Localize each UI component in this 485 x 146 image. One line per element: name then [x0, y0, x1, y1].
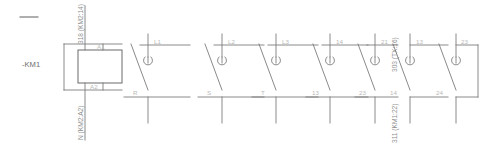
pole-l1: L1 R — [124, 34, 190, 123]
pole-l2: L2 S — [198, 34, 264, 123]
pole-l2-top-label: L2 — [228, 38, 235, 45]
vertical-label-303: 303 (TX:16) — [391, 37, 399, 72]
coil-wire-bottom-label: N (KM2:A2) — [77, 106, 85, 140]
blade-1 — [131, 44, 148, 90]
coil-terminal-a2: A2 — [90, 83, 98, 90]
blade-3 — [259, 44, 276, 90]
coil-wire-top-label: 318 (KM2:14) — [77, 4, 85, 44]
pole-aux-23-24: 23 24 — [436, 34, 478, 123]
pole-aux-14-13: 14 13 — [306, 34, 368, 123]
pole-l1-bottom-label: R — [133, 89, 138, 96]
pole-aux-13-14: 13 14 — [390, 34, 448, 123]
pole-aux-13-14-bottom-label: 14 — [390, 89, 397, 96]
coil-box — [78, 50, 122, 83]
coil-terminal-a1: A1 — [97, 43, 105, 50]
coil-assembly: A1 A2 318 (KM2:14) N (KM2:A2) — [64, 4, 122, 140]
pole-aux-14-13-top-label: 14 — [336, 38, 343, 45]
blade-4 — [313, 44, 330, 90]
pole-aux-23-24-top-label: 23 — [461, 38, 468, 45]
pole-l1-top-label: L1 — [154, 38, 161, 45]
contactor-schematic: -KM1 A1 A2 318 (KM2:14) N (KM2:A2) L1 R — [0, 0, 485, 146]
pole-aux-13-14-top-label: 13 — [416, 38, 423, 45]
pole-aux-21-23-top-label: 21 — [381, 38, 388, 45]
pole-aux-21-23-bottom-label: 23 — [359, 89, 366, 96]
blade-5 — [358, 44, 375, 90]
blade-7 — [439, 44, 456, 90]
pole-l3-bottom-label: T — [261, 89, 265, 96]
vertical-label-311: 311 (KM1:22) — [391, 104, 399, 143]
pole-l3: L3 T — [252, 34, 318, 123]
blade-2 — [205, 44, 222, 90]
pole-aux-23-24-bottom-label: 24 — [436, 89, 443, 96]
pole-l2-bottom-label: S — [207, 89, 211, 96]
pole-l3-top-label: L3 — [282, 38, 289, 45]
pole-aux-14-13-bottom-label: 13 — [312, 89, 319, 96]
device-label: -KM1 — [22, 60, 40, 69]
